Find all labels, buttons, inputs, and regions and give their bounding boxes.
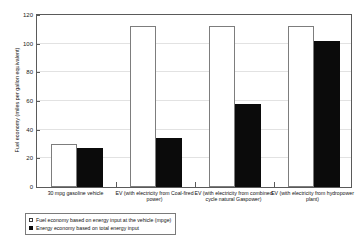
x-tick-mark [116, 182, 117, 187]
bar-group [274, 15, 353, 187]
y-tick-mark [37, 187, 40, 188]
bar [209, 26, 235, 187]
x-category-label: EV (with electricity from Coal-fired pow… [111, 190, 198, 203]
bar [314, 41, 340, 187]
x-tick-mark [195, 182, 196, 187]
y-tick-label: 60 [26, 98, 33, 104]
x-tick-mark [274, 182, 275, 187]
y-tick-label: 40 [26, 127, 33, 133]
bar [288, 26, 314, 187]
x-category-label: EV (with electricity from combined cycle… [190, 190, 277, 203]
y-tick-label: 120 [23, 12, 33, 18]
y-axis-title: Fuel economy (miles per gallon equivalen… [14, 10, 20, 190]
bar [235, 104, 261, 187]
y-tick-label: 80 [26, 69, 33, 75]
bar-series-container [37, 15, 351, 187]
y-tick-label: 100 [23, 41, 33, 47]
x-category-label: 30 mpg gasoline vehicle [32, 190, 119, 196]
bar-group [195, 15, 274, 187]
legend-item-label: Energy economy based on total energy inp… [36, 225, 139, 231]
y-tick-label: 20 [26, 155, 33, 161]
plot-area: 020406080100120 [36, 14, 352, 188]
legend-item-label: Fuel economy based on energy input at th… [36, 217, 171, 223]
bar-group [116, 15, 195, 187]
legend-item: Fuel economy based on energy input at th… [29, 216, 171, 224]
bar [130, 26, 156, 187]
bar [156, 138, 182, 187]
bar [51, 144, 77, 188]
filled-square-icon [29, 226, 33, 230]
chart-legend: Fuel economy based on energy input at th… [25, 213, 176, 235]
x-category-label: EV (with electricity from hydropower pla… [269, 190, 356, 203]
hollow-square-icon [29, 218, 33, 222]
legend-item: Energy economy based on total energy inp… [29, 224, 171, 232]
bar-group [37, 15, 116, 187]
bar [77, 148, 103, 187]
bar-chart-figure: Fuel economy (miles per gallon equivalen… [0, 0, 356, 251]
